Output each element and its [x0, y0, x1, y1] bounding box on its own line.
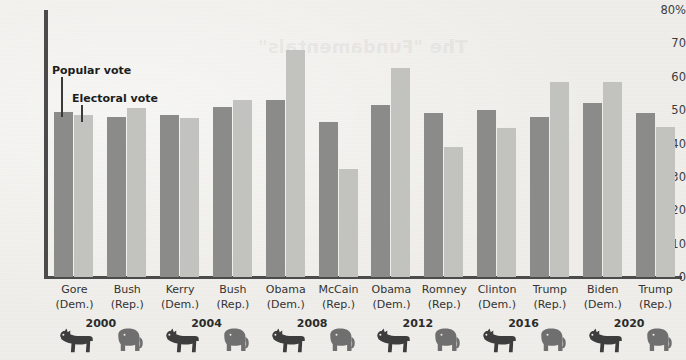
donkey-icon [264, 327, 308, 357]
elephant-icon [634, 327, 678, 357]
election-vote-share-chart: The "Fundamentals" 01020304050607080% Go… [0, 0, 686, 360]
popular-vote-annotation: Popular vote [52, 64, 131, 77]
plot-area: 01020304050607080% Gore(Dem.)Bush(Rep.)K… [0, 0, 686, 360]
candidate-party: (Dem.) [365, 297, 418, 312]
donkey-icon [369, 327, 413, 357]
candidate-party: (Rep.) [629, 297, 682, 312]
x-label-biden-2020: Biden(Dem.) [576, 282, 629, 312]
candidate-party: (Dem.) [576, 297, 629, 312]
bar-popular [477, 110, 496, 277]
x-label-mccain-2008: McCain(Rep.) [312, 282, 365, 312]
bar-electoral [497, 128, 516, 277]
x-label-trump-2020: Trump(Rep.) [629, 282, 682, 312]
bar-popular [213, 107, 232, 277]
candidate-party: (Rep.) [312, 297, 365, 312]
candidate-name: Kerry [166, 283, 195, 296]
electoral-vote-leader-line [81, 105, 83, 122]
candidate-name: Bush [114, 283, 141, 296]
elephant-icon [528, 327, 572, 357]
donkey-icon [475, 327, 519, 357]
elephant-icon [422, 327, 466, 357]
bar-electoral [603, 82, 622, 277]
bar-popular [371, 105, 390, 277]
x-label-obama-2008: Obama(Dem.) [259, 282, 312, 312]
x-label-romney-2012: Romney(Rep.) [418, 282, 471, 312]
x-label-kerry-2004: Kerry(Dem.) [154, 282, 207, 312]
candidate-party: (Rep.) [524, 297, 577, 312]
candidate-name: Trump [638, 283, 672, 296]
donkey-icon [581, 327, 625, 357]
x-label-bush-2000: Bush(Rep.) [101, 282, 154, 312]
candidate-party: (Rep.) [418, 297, 471, 312]
candidate-name: Obama [266, 283, 306, 296]
bar-electoral [233, 100, 252, 277]
bar-electoral [550, 82, 569, 277]
candidate-name: Clinton [478, 283, 517, 296]
candidate-party: (Dem.) [48, 297, 101, 312]
bar-popular [530, 117, 549, 277]
elephant-icon [211, 327, 255, 357]
candidate-name: Gore [61, 283, 87, 296]
candidate-party: (Rep.) [101, 297, 154, 312]
electoral-vote-annotation: Electoral vote [72, 92, 158, 105]
bar-electoral [339, 169, 358, 277]
x-label-obama-2012: Obama(Dem.) [365, 282, 418, 312]
bar-electoral [74, 115, 93, 277]
bars-container [48, 0, 682, 277]
candidate-name: McCain [319, 283, 359, 296]
bar-popular [107, 117, 126, 277]
bar-popular [424, 113, 443, 277]
bar-popular [266, 100, 285, 277]
bar-electoral [444, 147, 463, 277]
candidate-name: Bush [219, 283, 246, 296]
popular-vote-leader-line [61, 77, 63, 117]
donkey-icon [158, 327, 202, 357]
bar-popular [54, 112, 73, 277]
candidate-party: (Dem.) [471, 297, 524, 312]
bar-popular [636, 113, 655, 277]
candidate-name: Trump [533, 283, 567, 296]
candidate-party: (Dem.) [154, 297, 207, 312]
candidate-party: (Dem.) [259, 297, 312, 312]
candidate-name: Obama [371, 283, 411, 296]
donkey-icon [52, 327, 96, 357]
x-label-clinton-2016: Clinton(Dem.) [471, 282, 524, 312]
candidate-party: (Rep.) [207, 297, 260, 312]
x-label-gore-2000: Gore(Dem.) [48, 282, 101, 312]
candidate-name: Romney [422, 283, 467, 296]
bar-popular [160, 115, 179, 277]
bar-electoral [180, 118, 199, 277]
bar-electoral [656, 127, 675, 277]
elephant-icon [105, 327, 149, 357]
elephant-icon [317, 327, 361, 357]
x-label-trump-2016: Trump(Rep.) [524, 282, 577, 312]
bar-popular [319, 122, 338, 277]
bar-electoral [286, 50, 305, 277]
candidate-name: Biden [587, 283, 618, 296]
bar-electoral [127, 108, 146, 277]
bar-popular [583, 103, 602, 277]
x-label-bush-2004: Bush(Rep.) [207, 282, 260, 312]
bar-electoral [391, 68, 410, 277]
